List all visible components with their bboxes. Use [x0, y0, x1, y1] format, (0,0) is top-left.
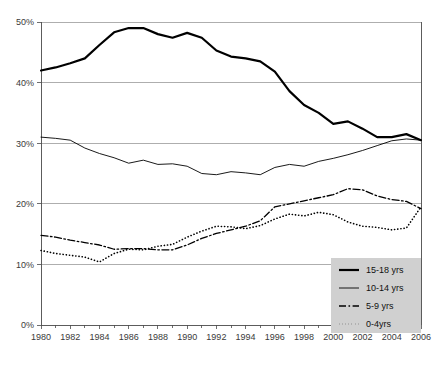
- x-tick-label: 1984: [89, 332, 109, 342]
- series-line-10-14-yrs: [41, 137, 421, 175]
- x-tick-label: 2002: [353, 332, 373, 342]
- gridlines: [41, 22, 421, 264]
- x-tick-label: 1986: [119, 332, 139, 342]
- series-line-15-18-yrs: [41, 28, 421, 140]
- x-tick-label: 1998: [294, 332, 314, 342]
- x-tick-label: 1992: [206, 332, 226, 342]
- legend-label[interactable]: 10-14 yrs: [366, 283, 404, 293]
- y-tick-label: 10%: [16, 260, 34, 270]
- line-chart: 0%10%20%30%40%50% 1980198219841986198819…: [0, 0, 439, 371]
- legend-label[interactable]: 0-4yrs: [366, 319, 392, 329]
- series-line-5-9-yrs: [41, 189, 421, 250]
- x-tick-label: 2004: [382, 332, 402, 342]
- legend-label[interactable]: 5-9 yrs: [366, 301, 394, 311]
- y-tick-label: 0%: [21, 320, 34, 330]
- x-tick-label: 1994: [236, 332, 256, 342]
- y-tick-label: 20%: [16, 199, 34, 209]
- y-tick-label: 50%: [16, 17, 34, 27]
- x-axis-labels: 1980198219841986198819901992199419961998…: [31, 332, 431, 342]
- y-tick-label: 40%: [16, 78, 34, 88]
- series-line-0-4yrs: [41, 207, 421, 262]
- x-tick-label: 1980: [31, 332, 51, 342]
- chart-container: 0%10%20%30%40%50% 1980198219841986198819…: [0, 0, 439, 371]
- x-tick-label: 1988: [148, 332, 168, 342]
- y-tick-label: 30%: [16, 139, 34, 149]
- x-tick-label: 2000: [323, 332, 343, 342]
- x-tick-label: 1996: [265, 332, 285, 342]
- x-tick-label: 1982: [60, 332, 80, 342]
- x-tick-label: 2006: [411, 332, 431, 342]
- x-tick-label: 1990: [177, 332, 197, 342]
- data-series-group: [41, 28, 421, 262]
- chart-legend[interactable]: 15-18 yrs10-14 yrs5-9 yrs0-4yrs: [331, 258, 421, 333]
- legend-label[interactable]: 15-18 yrs: [366, 265, 404, 275]
- y-axis-labels: 0%10%20%30%40%50%: [16, 17, 34, 330]
- y-axis-tick-marks: [37, 22, 41, 325]
